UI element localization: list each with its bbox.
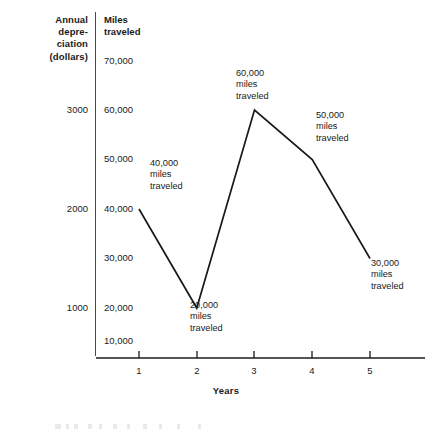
depreciation-miles-line-chart: Annual depre- ciation (dollars) 3000 200… — [0, 0, 440, 436]
x-tick-label-1: 1 — [129, 365, 149, 376]
annotation-year-5: 30,000 miles traveled — [371, 258, 404, 292]
x-tick-label-2: 2 — [187, 365, 207, 376]
annotation-year-3: 60,000 miles traveled — [236, 68, 269, 102]
x-axis-ticks — [139, 351, 370, 358]
x-axis-title: Years — [213, 385, 239, 396]
annotation-year-2: 20,000 miles traveled — [190, 300, 223, 334]
x-tick-label-3: 3 — [244, 365, 264, 376]
scan-artifact — [55, 424, 225, 429]
annotation-year-4: 50,000 miles traveled — [316, 110, 349, 144]
x-tick-label-5: 5 — [360, 365, 380, 376]
annotation-year-1: 40,000 miles traveled — [150, 158, 183, 192]
x-tick-label-4: 4 — [302, 365, 322, 376]
